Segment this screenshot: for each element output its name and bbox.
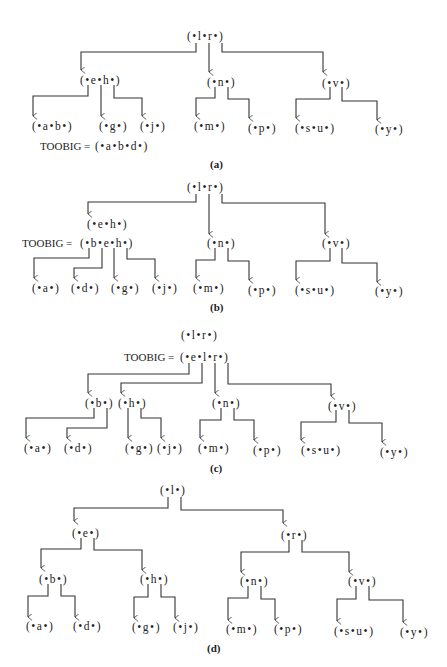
node-n: (•n•) xyxy=(212,397,241,410)
caption-d: (d) xyxy=(207,642,221,655)
node-d: (•d•) xyxy=(73,620,102,633)
node-n: (•n•) xyxy=(207,237,236,250)
node-g: (•g•) xyxy=(132,621,161,634)
node-su: (•s•u•) xyxy=(295,122,335,135)
edge-h-to-j xyxy=(141,408,161,438)
edge-e-to-h xyxy=(94,538,142,570)
edge-n-to-m xyxy=(196,248,215,278)
node-p: (•p•) xyxy=(253,444,282,457)
edge-b-to-d xyxy=(67,408,107,438)
toobig-label: TOOBIG = xyxy=(40,140,90,152)
edge-root-to-eh xyxy=(81,43,196,70)
edge-n-to-m xyxy=(200,408,221,438)
edge-toobig-to-j xyxy=(127,248,155,278)
node-p: (•p•) xyxy=(274,623,303,636)
edge-v-to-y xyxy=(342,87,377,120)
node-su: (•s•u•) xyxy=(334,625,374,638)
node-b: (•b•) xyxy=(85,397,114,410)
node-root: (•l•r•) xyxy=(181,329,218,342)
caption-c: (c) xyxy=(210,462,223,475)
edge-v-to-su xyxy=(296,87,330,118)
panel-c: (•l•r•) (•b•) (•h•) (•n•) (•v•) (•a•) (•… xyxy=(24,329,409,475)
edge-h-to-j xyxy=(161,584,175,618)
node-g: (•g•) xyxy=(125,442,154,455)
node-a: (•a•) xyxy=(26,620,54,633)
edge-v-to-y xyxy=(369,586,403,622)
toobig-value: (•a•b•d•) xyxy=(95,140,149,153)
node-eh: (•e•h•) xyxy=(80,74,121,87)
edge-h-to-g xyxy=(134,584,148,618)
edge-v-to-su xyxy=(296,248,330,280)
node-a: (•a•) xyxy=(24,442,52,455)
node-n: (•n•) xyxy=(240,575,269,588)
edge-n-to-m xyxy=(196,87,215,116)
node-m: (•m•) xyxy=(193,282,225,295)
edge-n-to-m xyxy=(228,586,248,620)
node-su: (•s•u•) xyxy=(295,284,335,297)
node-j: (•j•) xyxy=(173,621,199,634)
node-m: (•m•) xyxy=(226,623,258,636)
edge-toobig-to-h xyxy=(121,363,202,393)
node-j: (•j•) xyxy=(152,282,178,295)
toobig-value: (•b•e•h•) xyxy=(80,237,134,250)
caption-a: (a) xyxy=(210,158,223,171)
caption-b: (b) xyxy=(210,301,224,314)
node-d: (•d•) xyxy=(71,282,100,295)
node-l: (•l•) xyxy=(160,484,186,497)
edge-eh-to-j xyxy=(114,85,142,116)
node-n: (•n•) xyxy=(207,76,236,89)
node-b: (•b•) xyxy=(39,573,68,586)
node-p: (•p•) xyxy=(248,122,277,135)
node-ab: (•a•b•) xyxy=(32,120,73,133)
node-v: (•v•) xyxy=(348,575,377,588)
edge-b-to-a xyxy=(26,408,94,438)
node-eh: (•e•h•) xyxy=(87,218,128,231)
btree-figure: (•l•r•) (•e•h•) (•n•) (•v•) (•a•b•) (•g•… xyxy=(0,0,447,667)
panel-b: (•l•r•) (•e•h•) (•n•) (•v•) (•a•) (•d•) … xyxy=(22,181,404,314)
edge-n-to-p xyxy=(228,87,249,118)
node-h: (•h•) xyxy=(118,397,147,410)
toobig-value: (•e•l•r•) xyxy=(180,351,229,364)
node-g: (•g•) xyxy=(111,282,140,295)
node-y: (•y•) xyxy=(375,123,404,136)
edge-b-to-a xyxy=(28,584,48,617)
edge-v-to-su xyxy=(301,410,336,440)
edge-r-to-v xyxy=(302,540,349,572)
panel-a: (•l•r•) (•e•h•) (•n•) (•v•) (•a•b•) (•g•… xyxy=(32,30,404,171)
edge-root-to-v xyxy=(222,194,325,234)
node-d: (•d•) xyxy=(64,442,93,455)
edge-root-to-v xyxy=(222,43,323,72)
node-y: (•y•) xyxy=(375,285,404,298)
edge-toobig-to-d xyxy=(74,248,102,278)
node-m: (•m•) xyxy=(194,120,226,133)
node-p: (•p•) xyxy=(248,284,277,297)
node-h: (•h•) xyxy=(140,573,169,586)
edge-e-to-b xyxy=(41,538,81,568)
node-su: (•s•u•) xyxy=(301,444,341,457)
edge-root-to-eh xyxy=(88,194,196,214)
node-root: (•l•r•) xyxy=(187,181,224,194)
node-v: (•v•) xyxy=(328,400,357,413)
edge-r-to-n xyxy=(241,540,289,572)
edge-toobig-to-v xyxy=(228,363,331,396)
node-g: (•g•) xyxy=(99,120,128,133)
node-y: (•y•) xyxy=(400,626,429,639)
toobig-label: TOOBIG = xyxy=(22,237,72,249)
edge-l-to-r xyxy=(181,497,283,523)
node-y: (•y•) xyxy=(380,446,409,459)
panel-d: (•l•) (•e•) (•r•) (•b•) (•h•) (•n•) (•v•… xyxy=(26,484,429,655)
node-v: (•v•) xyxy=(322,237,351,250)
node-a: (•a•) xyxy=(32,282,60,295)
edge-n-to-p xyxy=(261,586,275,620)
node-r: (•r•) xyxy=(281,529,308,542)
edge-v-to-y xyxy=(342,248,377,282)
edge-v-to-su xyxy=(337,586,356,621)
edge-v-to-y xyxy=(349,410,382,442)
edge-n-to-p xyxy=(234,408,254,440)
edge-l-to-e xyxy=(74,497,168,521)
toobig-label: TOOBIG = xyxy=(124,351,174,363)
node-v: (•v•) xyxy=(322,77,351,90)
node-j: (•j•) xyxy=(140,120,166,133)
node-root: (•l•r•) xyxy=(187,30,224,43)
node-m: (•m•) xyxy=(198,442,230,455)
